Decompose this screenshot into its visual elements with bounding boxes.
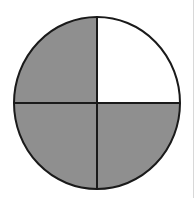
fraction-circle-diagram	[0, 0, 195, 198]
quarter-top-left-shaded	[14, 17, 97, 103]
quarter-bottom-left-shaded	[14, 103, 97, 189]
quarter-bottom-right-shaded	[97, 103, 180, 189]
quarter-top-right-unshaded	[97, 17, 180, 103]
